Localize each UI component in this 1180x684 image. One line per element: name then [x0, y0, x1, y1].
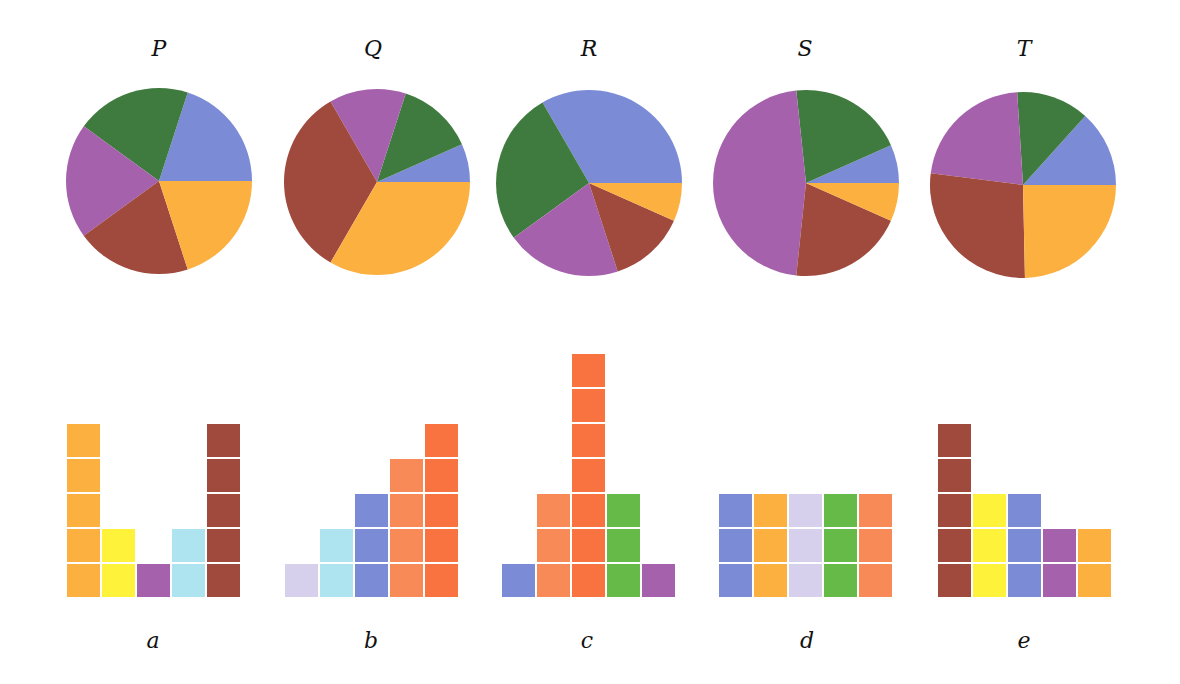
bar-block	[390, 564, 423, 597]
bar-block	[425, 424, 458, 457]
bar-block	[537, 564, 570, 597]
bar-block	[859, 564, 892, 597]
bar-block	[719, 564, 752, 597]
bar-block	[824, 494, 857, 527]
pie-title-s: S	[765, 38, 845, 60]
bar-block	[754, 494, 787, 527]
bar-block	[859, 529, 892, 562]
bar-block	[207, 529, 240, 562]
bar-block	[789, 529, 822, 562]
bar-block	[320, 529, 353, 562]
bar-block	[789, 494, 822, 527]
bar-block	[938, 564, 971, 597]
bar-block	[425, 494, 458, 527]
bar-block	[572, 354, 605, 387]
bar-block	[390, 459, 423, 492]
bar-block	[102, 529, 135, 562]
bar-block	[67, 529, 100, 562]
bar-block	[607, 564, 640, 597]
pie-slice-brown	[930, 173, 1025, 278]
pie-slice-purple	[931, 92, 1023, 185]
bar-block	[938, 424, 971, 457]
pie-title-r: R	[549, 38, 629, 60]
bar-block	[973, 564, 1006, 597]
bar-block	[390, 529, 423, 562]
bar-block	[207, 459, 240, 492]
bar-block	[572, 424, 605, 457]
bar-block	[719, 529, 752, 562]
bar-label-d: d	[767, 630, 847, 652]
pie-slice-purple	[713, 91, 806, 276]
bar-block	[938, 529, 971, 562]
bar-block	[1078, 564, 1111, 597]
bar-block	[859, 494, 892, 527]
bar-block	[607, 494, 640, 527]
bar-block	[824, 529, 857, 562]
bar-block	[1043, 564, 1076, 597]
bar-block	[789, 564, 822, 597]
bar-block	[425, 529, 458, 562]
bar-block	[67, 494, 100, 527]
bar-block	[285, 564, 318, 597]
bar-block	[425, 564, 458, 597]
bar-block	[67, 564, 100, 597]
bar-block	[355, 564, 388, 597]
pie-chart-q	[282, 87, 472, 277]
bar-block	[824, 564, 857, 597]
bar-block	[1043, 529, 1076, 562]
pie-title-p: P	[119, 38, 199, 60]
bar-label-b: b	[331, 630, 411, 652]
bar-label-a: a	[113, 630, 193, 652]
bar-block	[572, 564, 605, 597]
bar-block	[572, 494, 605, 527]
pie-chart-r	[494, 88, 684, 278]
bar-block	[1008, 494, 1041, 527]
bar-block	[137, 564, 170, 597]
bar-block	[642, 564, 675, 597]
bar-block	[1008, 529, 1041, 562]
pie-title-t: T	[984, 38, 1064, 60]
bar-block	[572, 529, 605, 562]
bar-block	[355, 529, 388, 562]
bar-block	[1078, 529, 1111, 562]
bar-block	[207, 494, 240, 527]
bar-block	[719, 494, 752, 527]
bar-label-e: e	[984, 630, 1064, 652]
bar-block	[973, 529, 1006, 562]
pie-chart-p	[64, 86, 254, 276]
bar-block	[172, 529, 205, 562]
bar-block	[502, 564, 535, 597]
bar-block	[607, 529, 640, 562]
bar-block	[1008, 564, 1041, 597]
pie-title-q: Q	[333, 38, 413, 60]
pie-chart-s	[711, 88, 901, 278]
bar-block	[207, 424, 240, 457]
bar-label-c: c	[547, 630, 627, 652]
bar-block	[172, 564, 205, 597]
bar-block	[320, 564, 353, 597]
bar-block	[754, 564, 787, 597]
bar-block	[355, 494, 388, 527]
bar-block	[572, 389, 605, 422]
bar-block	[67, 424, 100, 457]
bar-block	[67, 459, 100, 492]
pie-slice-orange	[1023, 185, 1116, 278]
bar-block	[390, 494, 423, 527]
bar-block	[572, 459, 605, 492]
bar-block	[207, 564, 240, 597]
bar-block	[938, 459, 971, 492]
bar-block	[425, 459, 458, 492]
bar-block	[938, 494, 971, 527]
bar-block	[754, 529, 787, 562]
bar-block	[973, 494, 1006, 527]
bar-block	[537, 529, 570, 562]
bar-block	[102, 564, 135, 597]
pie-chart-t	[928, 90, 1118, 280]
bar-block	[537, 494, 570, 527]
